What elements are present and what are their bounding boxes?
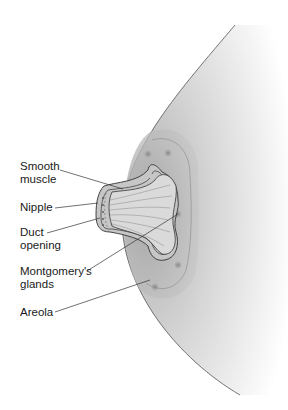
label-nipple: Nipple <box>20 201 53 214</box>
label-duct-opening: Duct opening <box>20 226 61 252</box>
label-montgomerys-glands: Montgomery's glands <box>20 265 92 291</box>
label-smooth-muscle: Smooth muscle <box>20 160 60 186</box>
label-areola: Areola <box>20 306 53 319</box>
